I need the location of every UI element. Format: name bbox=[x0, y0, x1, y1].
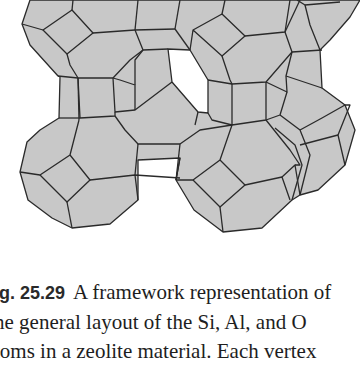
caption-line-2: he general layout of the Si, Al, and O bbox=[0, 308, 360, 337]
caption-line-3: toms in a zeolite material. Each vertex bbox=[0, 337, 360, 366]
zeolite-framework-figure bbox=[0, 0, 360, 270]
framework-diagram bbox=[0, 0, 360, 270]
figure-label: ig. 25.29 bbox=[0, 283, 65, 303]
caption-line-1: ig. 25.29A framework representation of bbox=[0, 278, 360, 308]
figure-caption: ig. 25.29A framework representation of h… bbox=[0, 278, 360, 366]
